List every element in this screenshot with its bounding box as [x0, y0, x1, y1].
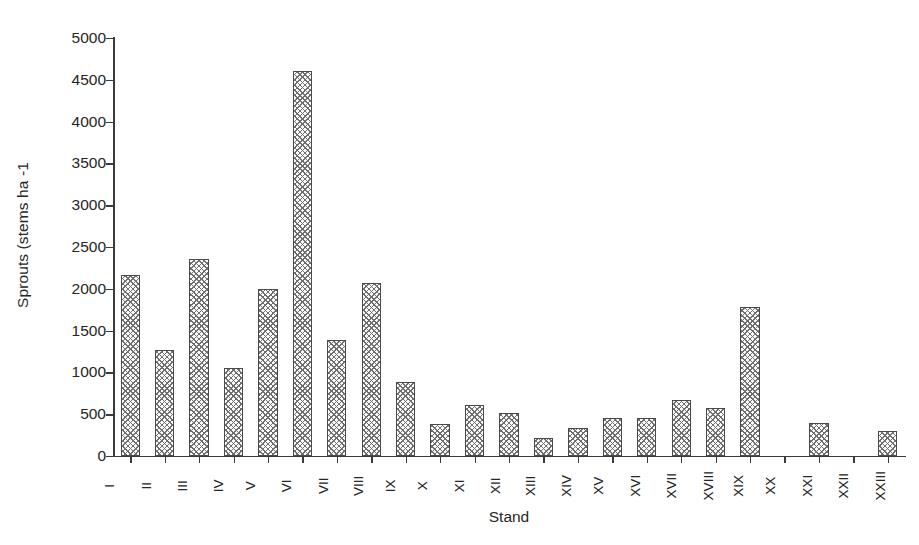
x-tick-mark	[578, 456, 579, 463]
x-tick-label-text: VII	[316, 478, 330, 495]
y-tick-label: 2000	[44, 281, 106, 297]
x-tick-mark	[302, 456, 303, 463]
bar-slot	[155, 38, 174, 456]
y-tick-mark	[106, 247, 113, 248]
bar-slot	[396, 38, 415, 456]
bar[interactable]	[672, 400, 691, 456]
x-tick-mark	[543, 456, 544, 463]
x-tick-mark	[268, 456, 269, 463]
bar-slot	[534, 38, 553, 456]
bar[interactable]	[121, 275, 140, 456]
x-tick-label-text: II	[140, 482, 154, 490]
x-tick-mark	[819, 456, 820, 463]
x-tick-mark	[612, 456, 613, 463]
x-tick-label-text: XV	[593, 477, 607, 495]
x-tick-label-text: XIII	[525, 476, 539, 496]
x-tick-label-text: VI	[280, 480, 294, 493]
bar[interactable]	[568, 428, 587, 456]
y-tick-mark	[106, 414, 113, 415]
bar[interactable]	[740, 307, 759, 456]
bar-slot	[809, 38, 828, 456]
bar-slot	[775, 38, 794, 456]
x-tick-label-text: XVIII	[701, 471, 715, 500]
y-tick-label: 1500	[44, 323, 106, 339]
bar-slot	[224, 38, 243, 456]
x-tick-mark	[199, 456, 200, 463]
y-tick-label: 4500	[44, 72, 106, 88]
x-tick-label-text: XXIII	[874, 471, 888, 500]
bar[interactable]	[224, 368, 243, 456]
x-tick-mark	[681, 456, 682, 463]
bar[interactable]	[809, 423, 828, 456]
bar[interactable]	[155, 350, 174, 456]
y-tick-mark	[106, 163, 113, 164]
y-tick-label: 4000	[44, 114, 106, 130]
y-tick-label: 3000	[44, 197, 106, 213]
bar[interactable]	[430, 424, 449, 456]
x-tick-label-text: XVII	[665, 473, 679, 499]
bar-slot	[603, 38, 622, 456]
x-tick-label-text: XIX	[732, 475, 746, 497]
bar-slot	[499, 38, 518, 456]
x-tick-mark	[371, 456, 372, 463]
y-tick-label: 2500	[44, 239, 106, 255]
y-tick-label: 500	[44, 406, 106, 422]
x-tick-mark	[647, 456, 648, 463]
bar-slot	[878, 38, 897, 456]
x-tick-label-text: XI	[452, 480, 466, 493]
x-tick-label-text: X	[416, 481, 430, 490]
bars-layer	[113, 38, 905, 456]
bar[interactable]	[396, 382, 415, 456]
x-tick-label-text: XXII	[837, 473, 851, 499]
x-tick-mark	[406, 456, 407, 463]
x-tick-mark	[750, 456, 751, 463]
bar[interactable]	[603, 418, 622, 456]
x-tick-mark	[440, 456, 441, 463]
bar[interactable]	[499, 413, 518, 456]
bar[interactable]	[362, 283, 381, 456]
bar[interactable]	[706, 408, 725, 456]
bar-slot	[362, 38, 381, 456]
x-tick-label-text: IV	[211, 480, 225, 493]
x-tick-mark	[853, 456, 854, 463]
x-tick-mark	[888, 456, 889, 463]
y-axis-title: Sprouts (stems ha -1	[0, 0, 46, 470]
bar[interactable]	[258, 289, 277, 456]
bar-slot	[327, 38, 346, 456]
y-tick-mark	[106, 372, 113, 373]
x-tick-mark	[716, 456, 717, 463]
bar[interactable]	[189, 259, 208, 456]
x-tick-mark	[165, 456, 166, 463]
y-tick-mark	[106, 122, 113, 123]
x-tick-label-text: V	[244, 481, 258, 490]
x-tick-label-text: IX	[383, 480, 397, 493]
bar[interactable]	[465, 405, 484, 456]
bar-slot	[672, 38, 691, 456]
x-tick-mark	[475, 456, 476, 463]
bar[interactable]	[534, 438, 553, 456]
y-tick-mark	[106, 205, 113, 206]
bar-slot	[293, 38, 312, 456]
bar-slot	[430, 38, 449, 456]
x-tick-mark	[130, 456, 131, 463]
x-axis-tick-labels: IIIIIIIVVVIVIIVIIIIXXXIXIIXIIIXIVXVXVIXV…	[113, 464, 905, 508]
x-tick-label-text: VIII	[353, 476, 367, 496]
y-axis-tick-labels: 0500100015002000250030003500400045005000	[44, 30, 106, 462]
bar-slot	[844, 38, 863, 456]
y-axis-title-text: Sprouts (stems ha -1	[14, 162, 32, 308]
x-tick-label-text: XIV	[560, 475, 574, 497]
bar-slot	[258, 38, 277, 456]
y-tick-label: 5000	[44, 30, 106, 46]
bar-slot	[637, 38, 656, 456]
bar-slot	[706, 38, 725, 456]
bar[interactable]	[878, 431, 897, 456]
x-tick-mark	[234, 456, 235, 463]
bar[interactable]	[293, 71, 312, 456]
y-tick-mark	[106, 456, 113, 457]
bar-slot	[740, 38, 759, 456]
bar[interactable]	[327, 340, 346, 456]
bar[interactable]	[637, 418, 656, 456]
x-tick-label: XXIII	[866, 464, 910, 508]
x-tick-label-text: III	[176, 480, 190, 491]
y-tick-label: 1000	[44, 365, 106, 381]
